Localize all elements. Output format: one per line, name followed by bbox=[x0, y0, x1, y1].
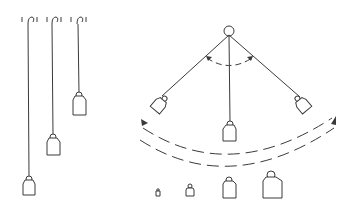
pendulum-short bbox=[73, 24, 86, 115]
pendulum-medium bbox=[47, 24, 60, 155]
swing-pendulum bbox=[140, 26, 336, 166]
hooks bbox=[22, 17, 86, 24]
pendulum-diagram bbox=[0, 0, 354, 213]
bob-sizes bbox=[156, 171, 282, 198]
pivot-icon bbox=[224, 26, 234, 36]
pendulum-long bbox=[23, 24, 35, 195]
